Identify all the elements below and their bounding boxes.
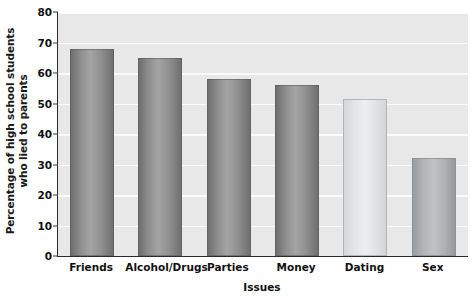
y-tick-label: 60: [26, 67, 52, 79]
bar-slot: [58, 12, 126, 256]
x-tick-label: Sex: [399, 261, 467, 277]
y-axis-label-line1: Percentage of high school students: [4, 28, 16, 235]
y-tick-label: 80: [26, 6, 52, 18]
y-tick-mark: [53, 73, 58, 74]
bar: [412, 158, 456, 256]
x-tick-label: Friends: [57, 261, 125, 277]
y-tick-mark: [53, 256, 58, 257]
x-tick-label: Alcohol/Drugs: [125, 261, 193, 277]
bar-chart-figure: Percentage of high school students who l…: [0, 0, 474, 303]
y-tick-mark: [53, 12, 58, 13]
x-tick-label: Dating: [330, 261, 398, 277]
y-tick-label: 40: [26, 128, 52, 140]
y-tick-mark: [53, 42, 58, 43]
x-axis-label: Issues: [57, 281, 467, 293]
y-tick-label: 10: [26, 220, 52, 232]
bar-slot: [126, 12, 194, 256]
y-tick-mark: [53, 195, 58, 196]
plot-area: [57, 12, 468, 257]
y-tick-mark: [53, 225, 58, 226]
bar-slot: [195, 12, 263, 256]
x-tick-label: Parties: [194, 261, 262, 277]
y-tick-label: 0: [26, 250, 52, 262]
y-tick-label: 70: [26, 37, 52, 49]
y-tick-mark: [53, 134, 58, 135]
bar: [207, 79, 251, 256]
bar: [275, 85, 319, 256]
y-tick-label: 20: [26, 189, 52, 201]
y-tick-mark: [53, 164, 58, 165]
bar-slot: [263, 12, 331, 256]
bar-slot: [400, 12, 468, 256]
x-axis-ticks: FriendsAlcohol/DrugsPartiesMoneyDatingSe…: [57, 261, 467, 277]
y-tick-label: 30: [26, 159, 52, 171]
bar: [138, 58, 182, 256]
y-tick-mark: [53, 103, 58, 104]
bar-slot: [331, 12, 399, 256]
bar: [70, 49, 114, 256]
y-axis-ticks: 01020304050607080: [26, 0, 52, 303]
bar: [343, 99, 387, 256]
bar-series: [58, 12, 468, 256]
x-tick-label: Money: [262, 261, 330, 277]
y-tick-label: 50: [26, 98, 52, 110]
